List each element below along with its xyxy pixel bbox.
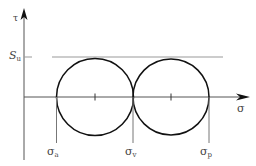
sigma-a-base: σ [47, 145, 55, 158]
sigma-p-sub: p [208, 151, 212, 159]
sigma-a-sub: a [55, 151, 59, 159]
sigma-p-label: σp [200, 146, 212, 159]
sigma-v-sub: v [133, 151, 137, 159]
tau-axis-label: τ [13, 14, 18, 23]
sigma-v-label: σv [125, 146, 136, 159]
su-label-base: S [9, 49, 17, 62]
su-label-sub: u [17, 55, 22, 63]
su-label: Su [9, 50, 21, 63]
sigma-a-label: σa [47, 146, 59, 159]
sigma-p-base: σ [200, 145, 208, 158]
mohr-circle-diagram [0, 0, 256, 166]
sigma-v-base: σ [125, 145, 133, 158]
sigma-axis-label: σ [237, 103, 245, 114]
